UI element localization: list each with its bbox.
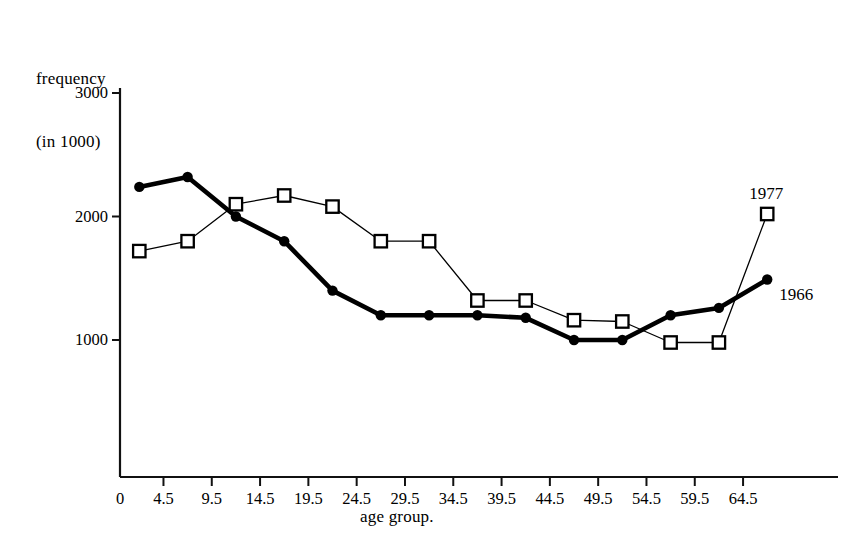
x-tick-label: 34.5 — [439, 489, 468, 509]
data-point-marker-filled-circle — [424, 310, 434, 320]
data-point-marker-open-square — [278, 189, 290, 201]
x-tick-label: 9.5 — [201, 489, 222, 509]
series-label-1966: 1966 — [779, 285, 813, 305]
data-point-marker-open-square — [326, 200, 338, 212]
x-tick-label: 14.5 — [246, 489, 275, 509]
axes — [120, 88, 838, 477]
data-point-marker-filled-circle — [472, 310, 482, 320]
data-point-marker-filled-circle — [182, 172, 192, 182]
data-point-marker-open-square — [375, 235, 387, 247]
data-point-marker-filled-circle — [762, 274, 772, 284]
data-point-marker-open-square — [520, 294, 532, 306]
data-point-marker-filled-circle — [231, 211, 241, 221]
data-point-marker-open-square — [664, 336, 676, 348]
data-point-marker-open-square — [423, 235, 435, 247]
data-point-marker-open-square — [230, 198, 242, 210]
x-tick-label: 24.5 — [342, 489, 371, 509]
data-point-marker-open-square — [133, 245, 145, 257]
x-tick-marks — [163, 477, 743, 486]
data-point-marker-open-square — [616, 315, 628, 327]
x-tick-label: 49.5 — [584, 489, 613, 509]
y-tick-marks — [112, 93, 120, 340]
data-point-marker-open-square — [761, 208, 773, 220]
y-tick-label: 3000 — [46, 83, 108, 103]
data-point-marker-filled-circle — [279, 236, 289, 246]
data-point-marker-filled-circle — [134, 182, 144, 192]
data-point-marker-filled-circle — [617, 335, 627, 345]
x-tick-label: 19.5 — [294, 489, 323, 509]
x-tick-label: 44.5 — [535, 489, 564, 509]
data-point-marker-filled-circle — [714, 303, 724, 313]
data-point-marker-filled-circle — [569, 335, 579, 345]
data-point-marker-open-square — [713, 336, 725, 348]
y-tick-label: 2000 — [46, 207, 108, 227]
x-tick-label: 54.5 — [632, 489, 661, 509]
x-tick-label: 29.5 — [391, 489, 420, 509]
data-point-marker-filled-circle — [665, 310, 675, 320]
data-point-marker-open-square — [471, 294, 483, 306]
data-point-marker-filled-circle — [521, 313, 531, 323]
plot-area — [0, 0, 856, 543]
x-tick-label: 64.5 — [729, 489, 758, 509]
data-point-marker-filled-circle — [376, 310, 386, 320]
x-tick-label: 0 — [116, 489, 124, 509]
x-tick-label: 59.5 — [680, 489, 709, 509]
data-point-marker-open-square — [568, 314, 580, 326]
data-point-marker-open-square — [181, 235, 193, 247]
x-tick-label: 39.5 — [487, 489, 516, 509]
chart-figure: frequency (in 1000) age group. 100020003… — [0, 0, 856, 543]
y-tick-label: 1000 — [46, 330, 108, 350]
data-point-marker-filled-circle — [327, 285, 337, 295]
x-tick-label: 4.5 — [153, 489, 174, 509]
series-label-1977: 1977 — [749, 184, 783, 204]
